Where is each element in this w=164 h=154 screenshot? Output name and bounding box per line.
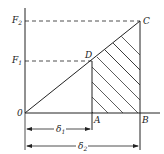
load-line-0-c	[25, 21, 140, 113]
label-f1: F1	[11, 55, 22, 66]
force-displacement-diagram: δ1 δ2 F2 F1 0 C D A B	[0, 0, 164, 154]
dimension-delta2: δ2	[26, 141, 139, 152]
label-point-c: C	[143, 16, 150, 26]
dimension-delta1: δ1	[26, 124, 91, 135]
label-point-d: D	[84, 50, 92, 60]
label-origin: 0	[17, 108, 23, 118]
label-point-b: B	[141, 115, 149, 125]
svg-text:δ1: δ1	[56, 124, 65, 135]
svg-text:δ2: δ2	[78, 141, 87, 152]
label-f2: F2	[11, 15, 22, 26]
label-point-a: A	[93, 115, 101, 125]
